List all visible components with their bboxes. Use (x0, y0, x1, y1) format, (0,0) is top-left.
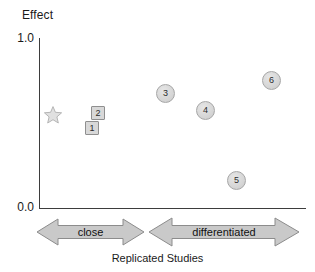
x-axis-title: Replicated Studies (0, 252, 315, 264)
close-range-arrow (36, 214, 145, 250)
data-point-star[interactable] (43, 105, 63, 125)
y-axis-title: Effect (22, 8, 53, 22)
data-point-1[interactable]: 1 (85, 121, 99, 135)
y-axis-tick-bottom: 0.0 (4, 200, 34, 214)
data-point-6[interactable]: 6 (262, 71, 281, 90)
x-axis-line (39, 208, 306, 209)
y-axis-line (39, 38, 40, 209)
data-point-5[interactable]: 5 (227, 171, 246, 190)
differentiated-range-arrow (148, 214, 300, 250)
data-point-2[interactable]: 2 (91, 106, 105, 120)
data-point-4[interactable]: 4 (196, 101, 215, 120)
data-point-3[interactable]: 3 (156, 84, 175, 103)
annotation-arrow-band: close differentiated (0, 214, 315, 250)
effect-scatter-chart: Effect 1.0 0.0 1 2 3 4 5 6 close differe… (0, 0, 315, 272)
y-axis-tick-top: 1.0 (4, 31, 34, 45)
